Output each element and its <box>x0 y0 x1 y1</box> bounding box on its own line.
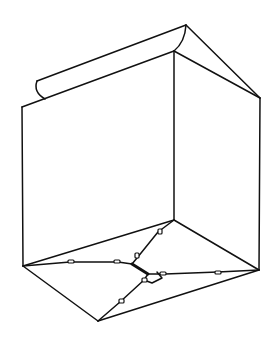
locking-tabs <box>68 229 221 303</box>
tab <box>135 253 139 258</box>
box-diagram <box>0 0 274 346</box>
box-top-edges <box>22 51 260 107</box>
tab <box>158 229 162 234</box>
tab <box>114 260 120 263</box>
top-flap <box>36 25 260 99</box>
box-vertical-edges <box>22 51 260 270</box>
tab <box>160 272 166 275</box>
tab <box>119 299 124 303</box>
bottom-flap-seams <box>23 220 259 321</box>
tab <box>68 260 74 263</box>
tab <box>142 278 147 282</box>
box-drawing <box>0 0 274 346</box>
tab <box>215 271 221 274</box>
